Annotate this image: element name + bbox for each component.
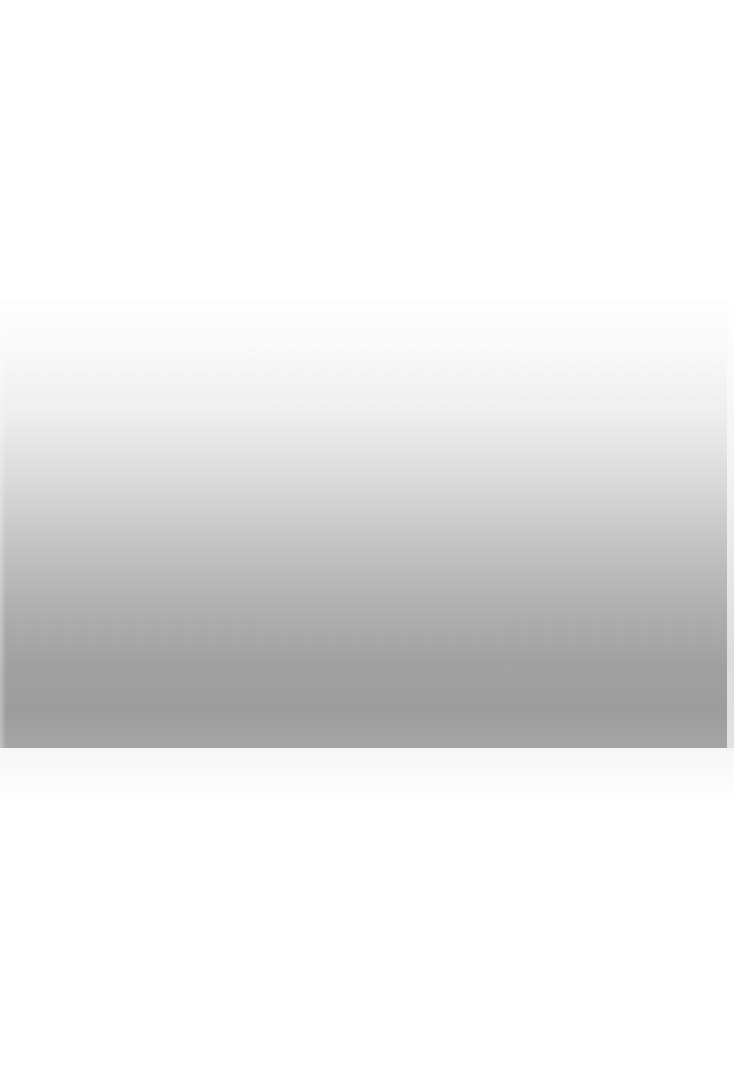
- top-blank-area: [0, 0, 734, 320]
- noise-texture: [0, 300, 734, 748]
- gray-gradient-band: [0, 300, 734, 748]
- bottom-blank-area: [0, 802, 734, 1080]
- light-strip: [0, 748, 734, 802]
- page-viewport: Blank page with a vertical gray gradient…: [0, 0, 734, 1080]
